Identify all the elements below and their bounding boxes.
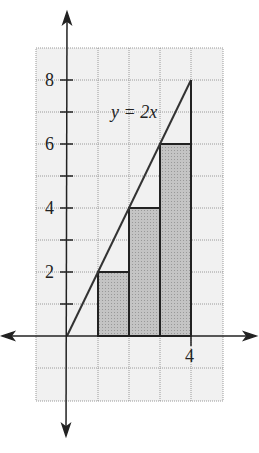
x-tick-label-4: 4 [185, 346, 194, 366]
function-label: y = 2x [109, 102, 157, 122]
y-tick-label-4: 4 [45, 198, 54, 218]
y-tick-label-2: 2 [45, 262, 54, 282]
rectangle-1 [98, 272, 129, 336]
riemann-sum-diagram: 8 6 4 2 4 y = 2x [0, 0, 259, 453]
y-tick-label-6: 6 [45, 134, 54, 154]
y-axis [66, 16, 67, 432]
rectangle-3 [160, 144, 191, 336]
rectangle-2 [129, 208, 160, 336]
y-tick-label-8: 8 [45, 70, 54, 90]
